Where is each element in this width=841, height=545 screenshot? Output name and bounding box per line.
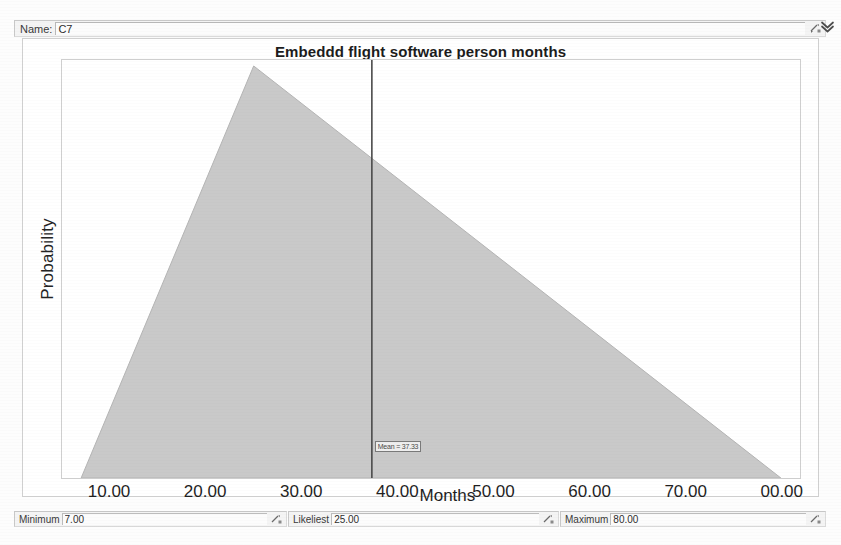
minimum-resize-arrow-icon[interactable]	[268, 512, 284, 527]
y-axis-label: Probability	[37, 39, 59, 479]
maximum-resize-arrow-icon[interactable]	[807, 512, 823, 527]
expand-button[interactable]	[817, 18, 837, 38]
plot-area: Mean = 37.33	[61, 59, 801, 479]
x-axis-title: Months	[420, 486, 476, 506]
parameter-bar: Minimum Likeliest Maxi	[14, 511, 826, 527]
minimum-field: Minimum	[14, 511, 287, 527]
minimum-input[interactable]	[62, 513, 267, 525]
y-axis-label-text: Probability	[38, 218, 58, 300]
distribution-plot	[62, 60, 800, 478]
distribution-dialog: Name: Embeddd flight software person mon…	[0, 0, 841, 545]
maximum-field: Maximum	[560, 511, 826, 527]
likeliest-field: Likeliest	[288, 511, 559, 527]
mean-marker-label[interactable]: Mean = 37.33	[375, 441, 422, 452]
likeliest-input[interactable]	[331, 513, 539, 525]
chart-title: Embeddd flight software person months	[23, 43, 818, 60]
maximum-label: Maximum	[561, 514, 608, 525]
maximum-input[interactable]	[610, 513, 806, 525]
name-bar: Name:	[14, 20, 826, 37]
likeliest-resize-arrow-icon[interactable]	[540, 512, 556, 527]
double-chevron-down-icon	[820, 19, 835, 38]
name-input[interactable]	[55, 22, 805, 35]
x-axis-title-row: Months	[61, 484, 801, 508]
likeliest-label: Likeliest	[289, 514, 329, 525]
chart-panel: Embeddd flight software person months Pr…	[22, 38, 819, 497]
triangular-density-shape	[81, 66, 781, 478]
name-label: Name:	[15, 23, 52, 35]
minimum-label: Minimum	[15, 514, 60, 525]
